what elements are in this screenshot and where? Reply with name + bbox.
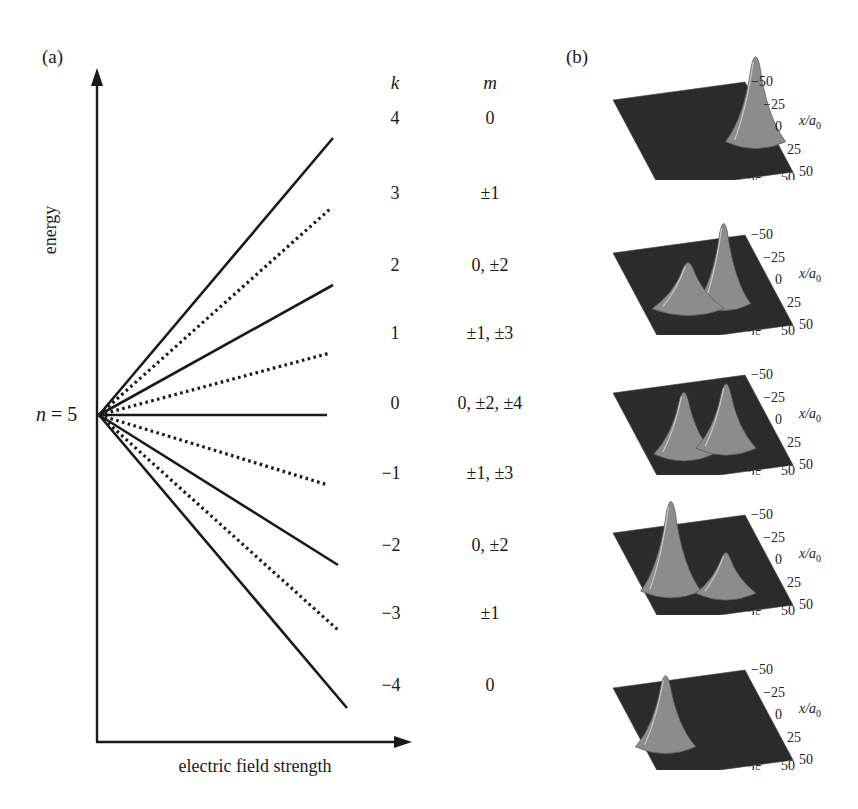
- k-value: −4: [371, 675, 411, 696]
- x-tick-label: −25: [763, 685, 785, 700]
- density-plot-k4: −50−2502550x/a0−50−2502550z/a0: [605, 20, 858, 180]
- x-tick-label: 25: [787, 435, 801, 450]
- level-label-n5: n = 5: [36, 403, 77, 426]
- z-tick-label: 25: [748, 763, 762, 771]
- level-line-kneg3: [99, 415, 338, 630]
- energy-axis-arrowhead-icon: [91, 68, 103, 86]
- m-value: 0: [420, 675, 560, 696]
- x-tick-label: 0: [775, 272, 782, 287]
- level-line-kneg4: [99, 415, 347, 708]
- k-value: 3: [375, 183, 415, 204]
- x-tick-label: −50: [751, 227, 773, 242]
- x-tick-label: −25: [763, 250, 785, 265]
- x-tick-label: −25: [763, 390, 785, 405]
- k-value: 1: [375, 323, 415, 344]
- x-tick-label: −50: [751, 74, 773, 89]
- x-tick-label: 0: [775, 552, 782, 567]
- x-tick-label: 50: [799, 752, 813, 767]
- k-value: 4: [375, 108, 415, 129]
- x-tick-label: 0: [775, 119, 782, 134]
- k-column-header: k: [355, 72, 435, 94]
- m-value: 0, ±2: [420, 535, 560, 556]
- x-tick-label: 25: [787, 142, 801, 157]
- k-value: 2: [375, 255, 415, 276]
- level-line-k1: [99, 353, 330, 415]
- x-tick-label: −25: [763, 97, 785, 112]
- energy-axis-label-wrap: energy: [30, 170, 90, 230]
- m-column-header: m: [450, 72, 530, 94]
- k-value: −1: [371, 463, 411, 484]
- x-tick-label: −50: [751, 507, 773, 522]
- m-value: 0, ±2, ±4: [420, 393, 560, 414]
- m-value: ±1: [420, 183, 560, 204]
- x-tick-label: 25: [787, 730, 801, 745]
- m-value: 0, ±2: [420, 255, 560, 276]
- level-line-k3: [99, 209, 330, 415]
- m-value: 0: [420, 108, 560, 129]
- x-axis-label: x/a0: [798, 266, 821, 284]
- m-value: ±1, ±3: [420, 323, 560, 344]
- level-line-k4: [99, 138, 333, 415]
- n-symbol: n: [36, 403, 46, 425]
- k-value: −2: [371, 535, 411, 556]
- x-tick-label: −25: [763, 530, 785, 545]
- level-line-k2: [99, 285, 333, 415]
- x-tick-label: 25: [787, 575, 801, 590]
- stark-level-lines: [99, 138, 347, 708]
- x-axis-label: x/a0: [798, 546, 821, 564]
- panel-b-label: (b): [566, 46, 588, 68]
- k-value: −3: [371, 603, 411, 624]
- k-value: 0: [375, 393, 415, 414]
- z-tick-label: 50: [781, 758, 795, 770]
- density-plot-k2: −50−2502550x/a0−50−2502550z/a0: [605, 175, 858, 335]
- field-axis-label: electric field strength: [155, 756, 355, 777]
- x-tick-label: −50: [751, 367, 773, 382]
- x-tick-label: 0: [775, 707, 782, 722]
- x-axis-label: x/a0: [798, 701, 821, 719]
- level-line-kneg2: [99, 415, 338, 565]
- m-value: ±1, ±3: [420, 463, 560, 484]
- x-tick-label: −50: [751, 662, 773, 677]
- x-axis-label: x/a0: [798, 113, 821, 131]
- x-axis-label: x/a0: [798, 406, 821, 424]
- x-tick-label: 25: [787, 295, 801, 310]
- density-plot-kneg4: −50−2502550x/a0−50−2502550z/a0: [605, 610, 858, 770]
- field-axis-arrowhead-icon: [394, 736, 412, 748]
- density-plot-kneg2: −50−2502550x/a0−50−2502550z/a0: [605, 455, 858, 615]
- level-line-kneg1: [99, 415, 328, 485]
- n-value: 5: [67, 403, 77, 425]
- energy-axis-label: energy: [40, 206, 61, 255]
- equals-sign: =: [46, 403, 67, 425]
- m-value: ±1: [420, 603, 560, 624]
- x-tick-label: 0: [775, 412, 782, 427]
- density-plot-k0: −50−2502550x/a0−50−2502550z/a0: [605, 315, 858, 475]
